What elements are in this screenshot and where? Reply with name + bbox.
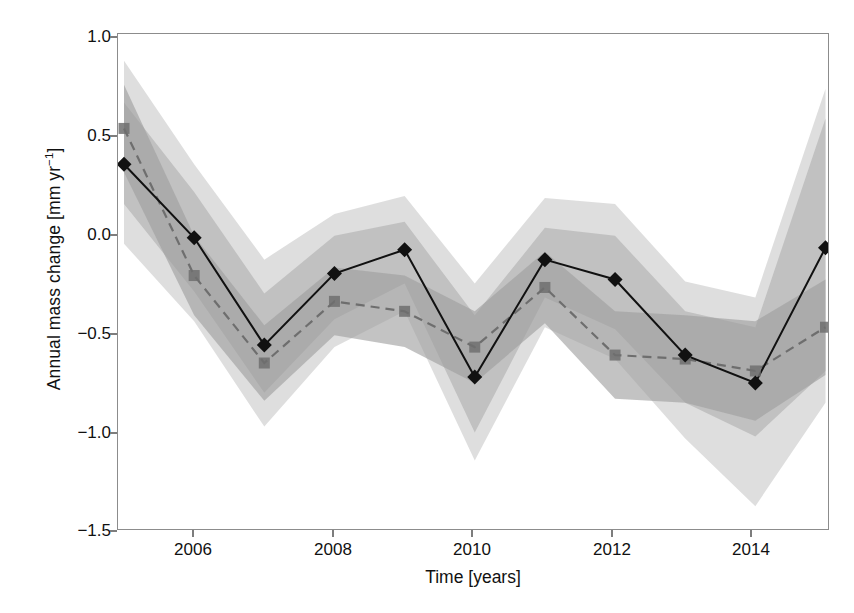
y-tick-mark	[110, 36, 117, 38]
y-tick-mark	[110, 135, 117, 137]
y-axis-title-exponent: −1	[43, 153, 55, 166]
y-tick-label-1: 1.0	[51, 28, 111, 45]
y-axis-title-main: Annual mass change [mm yr	[44, 166, 64, 390]
x-tick-mark	[611, 530, 613, 537]
x-tick-label-2014: 2014	[711, 540, 791, 560]
chart-figure: Annual mass change [mm yr−1] Time [years…	[0, 0, 854, 613]
y-axis-title-tail: ]	[44, 148, 64, 153]
x-tick-label-2012: 2012	[572, 540, 652, 560]
y-tick-mark	[110, 333, 117, 335]
y-tick-label-4: −0.5	[51, 325, 111, 342]
y-tick-mark	[110, 530, 117, 532]
y-tick-label-3: 0.0	[51, 226, 111, 243]
x-tick-label-2008: 2008	[293, 540, 373, 560]
x-tick-mark	[471, 530, 473, 537]
x-tick-label-2006: 2006	[153, 540, 233, 560]
y-tick-mark	[110, 432, 117, 434]
x-tick-label-2010: 2010	[432, 540, 512, 560]
x-axis-title: Time [years]	[117, 567, 829, 588]
y-tick-mark	[110, 234, 117, 236]
y-tick-label-2: 0.5	[51, 127, 111, 144]
y-tick-label-5: −1.0	[51, 424, 111, 441]
y-axis-title: Annual mass change [mm yr−1]	[43, 19, 65, 519]
x-tick-mark	[750, 530, 752, 537]
x-tick-mark	[192, 530, 194, 537]
x-tick-mark	[332, 530, 334, 537]
plot-frame	[117, 33, 829, 530]
y-tick-label-6: −1.5	[51, 522, 111, 539]
